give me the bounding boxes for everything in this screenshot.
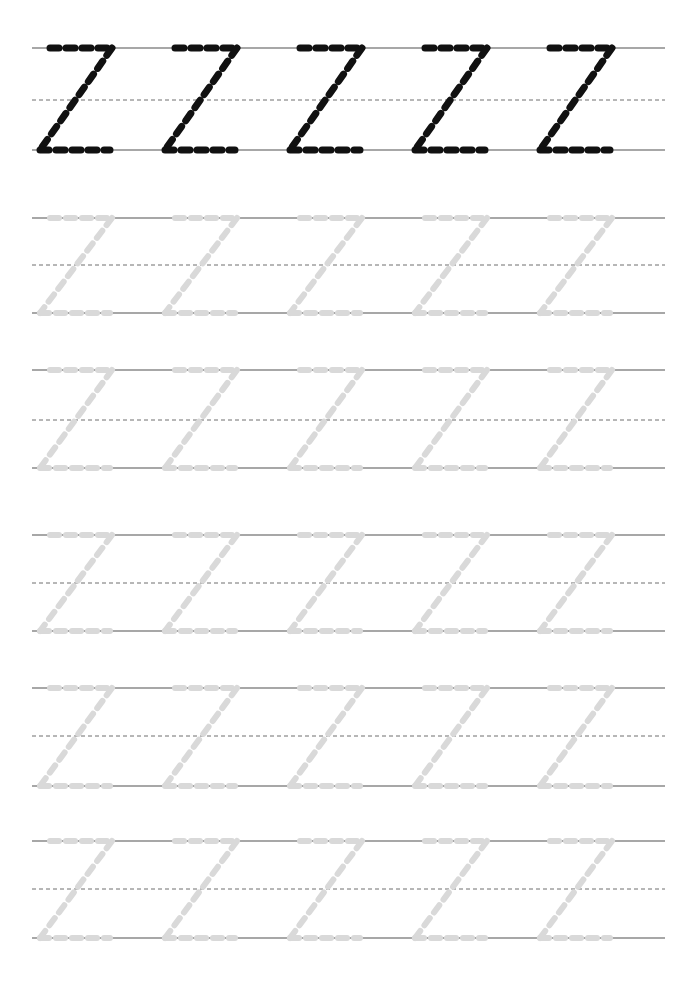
- practice-row-6[interactable]: [0, 827, 699, 952]
- letter-stroke-diagonal: [40, 370, 112, 468]
- letter-stroke-diagonal: [540, 688, 612, 786]
- letter-z-1[interactable]: [40, 535, 112, 631]
- letter-z-2[interactable]: [165, 688, 237, 786]
- letter-stroke-diagonal: [290, 48, 362, 150]
- practice-row-canvas: [0, 356, 699, 482]
- practice-row-5[interactable]: [0, 674, 699, 800]
- letter-stroke-diagonal: [290, 688, 362, 786]
- letter-stroke-diagonal: [165, 370, 237, 468]
- letter-z-2[interactable]: [165, 370, 237, 468]
- practice-row-canvas: [0, 34, 699, 164]
- letter-stroke-diagonal: [290, 370, 362, 468]
- letter-stroke-diagonal: [165, 688, 237, 786]
- worksheet-page: [0, 0, 699, 984]
- letter-z-2[interactable]: [165, 48, 237, 150]
- letter-z-5[interactable]: [540, 688, 612, 786]
- letter-stroke-diagonal: [415, 688, 487, 786]
- letter-z-4[interactable]: [415, 48, 487, 150]
- letter-stroke-diagonal: [540, 48, 612, 150]
- letter-z-1[interactable]: [40, 48, 112, 150]
- letter-stroke-diagonal: [40, 535, 112, 631]
- practice-row-canvas: [0, 204, 699, 327]
- letter-z-3[interactable]: [290, 370, 362, 468]
- letter-z-4[interactable]: [415, 370, 487, 468]
- letter-stroke-diagonal: [165, 48, 237, 150]
- letter-stroke-diagonal: [540, 370, 612, 468]
- letter-z-1[interactable]: [40, 688, 112, 786]
- letter-z-5[interactable]: [540, 48, 612, 150]
- practice-row-canvas: [0, 521, 699, 645]
- letter-stroke-diagonal: [40, 688, 112, 786]
- practice-row-canvas: [0, 827, 699, 952]
- letter-z-3[interactable]: [290, 48, 362, 150]
- practice-row-canvas: [0, 674, 699, 800]
- practice-row-3[interactable]: [0, 356, 699, 482]
- letter-z-3[interactable]: [290, 688, 362, 786]
- letter-z-1[interactable]: [40, 370, 112, 468]
- practice-row-1[interactable]: [0, 34, 699, 164]
- letter-z-4[interactable]: [415, 688, 487, 786]
- practice-row-4[interactable]: [0, 521, 699, 645]
- letter-z-5[interactable]: [540, 370, 612, 468]
- letter-stroke-diagonal: [415, 370, 487, 468]
- letter-stroke-diagonal: [415, 48, 487, 150]
- letter-stroke-diagonal: [40, 48, 112, 150]
- letter-stroke-diagonal: [40, 218, 112, 313]
- practice-row-2[interactable]: [0, 204, 699, 327]
- letter-z-1[interactable]: [40, 218, 112, 313]
